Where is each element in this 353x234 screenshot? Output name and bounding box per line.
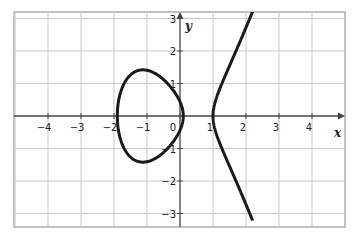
- x-tick-label: 0: [170, 122, 176, 133]
- x-tick-label: 2: [240, 122, 246, 133]
- x-tick-label: −4: [37, 122, 52, 133]
- y-tick-label: −3: [161, 209, 176, 220]
- x-tick-label: 4: [306, 122, 312, 133]
- x-tick-label: −1: [136, 122, 151, 133]
- y-tick-label: 2: [170, 46, 176, 57]
- y-tick-label: 3: [170, 14, 176, 25]
- x-tick-label: 3: [273, 122, 279, 133]
- y-tick-label: −2: [161, 176, 176, 187]
- y-axis-label: y: [184, 19, 193, 33]
- x-axis-label: x: [333, 126, 342, 140]
- x-tick-label: −3: [70, 122, 85, 133]
- x-tick-label: −2: [103, 122, 118, 133]
- graph: −4−3−2−101234321−1−2−3 x y: [0, 0, 353, 234]
